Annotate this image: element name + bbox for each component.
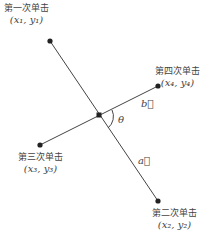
intersection-point xyxy=(97,113,102,118)
label-point-2: 第二次单击 (x₂, y₂) xyxy=(152,208,197,230)
line-a xyxy=(50,41,158,201)
point-2 xyxy=(155,198,160,203)
angle-arc xyxy=(108,110,113,128)
angle-theta-label: θ xyxy=(118,114,124,125)
point-1 xyxy=(47,38,52,43)
label-point-1: 第一次单击 (x₁, y₁) xyxy=(4,3,49,25)
vector-b-label: b⃗ xyxy=(141,98,153,109)
label-point-4: 第四次单击 (x₄, y₄) xyxy=(155,66,200,88)
point-3 xyxy=(37,142,42,147)
diagram-canvas xyxy=(0,0,216,241)
vector-a-label: a⃗ xyxy=(138,155,150,166)
label-point-3: 第三次单击 (x₃, y₃) xyxy=(18,152,63,174)
